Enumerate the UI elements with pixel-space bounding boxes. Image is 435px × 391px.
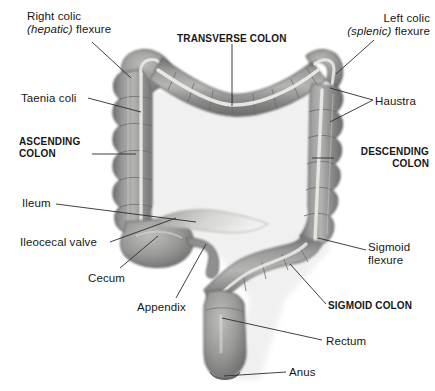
label-taenia-coli: Taenia coli	[21, 92, 76, 105]
label-haustra: Haustra	[375, 95, 416, 108]
label-cecum: Cecum	[88, 272, 125, 285]
label-right-colic-flexure: Right colic(hepatic) flexure	[27, 10, 111, 36]
label-descending-colon: DESCENDINGCOLON	[337, 146, 429, 169]
label-ileum: Ileum	[22, 197, 51, 210]
leader-left-colic-flexure	[336, 40, 374, 74]
rectum-segment	[204, 291, 246, 379]
label-anus: Anus	[289, 366, 316, 379]
label-sigmoid-flexure: Sigmoidflexure	[368, 241, 410, 267]
colon-anatomy-illustration	[0, 0, 435, 391]
label-rectum: Rectum	[326, 335, 366, 348]
ascending-colon-segment	[113, 69, 156, 232]
label-appendix: Appendix	[137, 301, 186, 314]
label-left-colic-flexure: Left colic(splenic) flexure	[318, 12, 430, 38]
label-ascending-colon: ASCENDINGCOLON	[19, 136, 80, 159]
label-sigmoid-colon: SIGMOID COLON	[328, 300, 412, 312]
label-transverse-colon: TRANSVERSE COLON	[177, 33, 287, 45]
label-ileocecal-valve: Ileocecal valve	[20, 236, 97, 249]
